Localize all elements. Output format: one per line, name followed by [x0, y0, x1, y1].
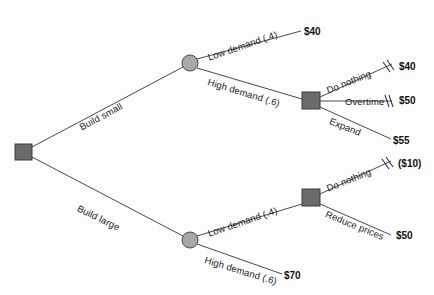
- node-decision-large-low-demand: [302, 189, 320, 206]
- payoff-small-expand: $55: [393, 135, 410, 146]
- decision-tree-diagram: Build small Build large Low demand (.4) …: [0, 0, 434, 295]
- payoff-large-do-nothing: ($10): [398, 158, 421, 169]
- payoff-large-reduce-prices: $50: [396, 230, 413, 241]
- payoff-small-do-nothing: $40: [399, 61, 416, 72]
- node-chance-build-small: [182, 55, 198, 71]
- payoff-large-high-demand: $70: [284, 270, 301, 281]
- node-decision-small-high-demand: [302, 92, 320, 109]
- payoff-small-overtime: $50: [399, 95, 416, 106]
- payoff-small-low-demand: $40: [304, 26, 321, 37]
- edge-label-small-overtime: Overtime: [345, 96, 384, 107]
- node-root-decision: [15, 144, 32, 160]
- tree-lines-svg: [0, 0, 434, 295]
- node-chance-build-large: [182, 232, 198, 248]
